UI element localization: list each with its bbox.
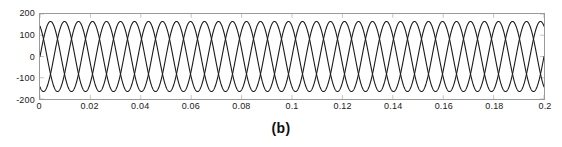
x-tick-label: 0.1 — [285, 101, 298, 111]
x-axis-tick-labels: 00.020.040.060.080.10.120.140.160.180.2 — [39, 101, 545, 117]
y-axis-tick-labels: 2001000-100-200 — [0, 13, 35, 100]
y-tick-label: -100 — [16, 73, 35, 83]
x-tick-label: 0.08 — [232, 101, 250, 111]
x-tick-label: 0 — [36, 101, 41, 111]
y-tick-label: -200 — [16, 95, 35, 105]
x-tick-label: 0.06 — [182, 101, 200, 111]
plot-area — [39, 13, 545, 100]
x-tick-label: 0.2 — [538, 101, 551, 111]
x-tick-label: 0.02 — [80, 101, 98, 111]
y-tick-label: 100 — [19, 30, 35, 40]
x-tick-label: 0.04 — [131, 101, 149, 111]
figure-panel-b: 2001000-100-200 00.020.040.060.080.10.12… — [0, 0, 562, 147]
y-tick-label: 200 — [19, 8, 35, 18]
x-tick-label: 0.14 — [384, 101, 402, 111]
y-tick-label: 0 — [30, 52, 35, 62]
x-tick-label: 0.16 — [435, 101, 453, 111]
x-tick-label: 0.18 — [485, 101, 503, 111]
figure-caption: (b) — [0, 120, 562, 136]
waveform-plot-svg — [40, 14, 544, 99]
x-tick-label: 0.12 — [333, 101, 351, 111]
